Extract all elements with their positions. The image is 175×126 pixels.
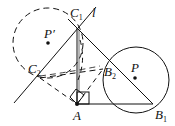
geometry-diagram: C1 l P′ C2 B2 P A B1 [0,0,175,126]
point-p-prime [46,41,50,45]
segment-c2-b2 [40,69,103,78]
label-c2: C2 [28,61,41,78]
label-c1: C1 [70,5,83,22]
label-a: A [72,108,81,123]
segment-c2-a [40,78,77,104]
point-p [133,76,137,80]
label-l: l [92,5,96,20]
segment-c1-b1 [68,19,153,104]
rotation-arc [78,40,83,80]
label-b1: B1 [155,107,167,124]
label-b2: B2 [104,64,116,81]
point-a [75,102,79,106]
label-p-prime: P′ [43,26,55,41]
label-p: P [130,60,139,75]
